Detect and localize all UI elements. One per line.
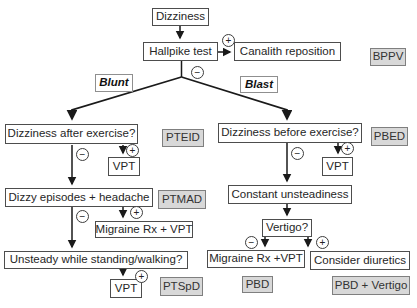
plus-icon: + xyxy=(222,34,235,47)
node-hallpike-test: Hallpike test xyxy=(143,42,218,61)
branch-label-blunt: Blunt xyxy=(95,74,133,92)
node-unsteady-standing-walking: Unsteady while standing/walking? xyxy=(4,251,188,269)
node-vertigo: Vertigo? xyxy=(262,219,312,237)
minus-icon: − xyxy=(191,66,204,79)
plus-icon: + xyxy=(316,236,329,249)
node-dizzy-episodes-headache: Dizzy episodes + headache xyxy=(5,188,153,207)
tag-bppv: BPPV xyxy=(370,48,406,66)
minus-icon: − xyxy=(76,148,89,161)
tag-pbd: PBD xyxy=(242,276,273,293)
plus-icon: + xyxy=(135,270,148,283)
plus-icon: + xyxy=(130,206,143,219)
node-consider-diuretics: Consider diuretics xyxy=(310,251,410,270)
tag-ptmad: PTMAD xyxy=(158,190,206,209)
tag-pbd-vertigo: PBD + Vertigo xyxy=(332,276,410,295)
branch-label-blast: Blast xyxy=(240,76,278,93)
tag-pteid: PTEID xyxy=(162,129,204,147)
node-dizziness: Dizziness xyxy=(152,8,209,26)
dizziness-flowchart: Dizziness Hallpike test Canalith reposit… xyxy=(0,0,417,308)
minus-icon: − xyxy=(245,236,258,249)
tag-pbed: PBED xyxy=(371,127,408,146)
node-vpt-right: VPT xyxy=(322,157,353,176)
tag-ptspd: PTSpD xyxy=(160,277,203,296)
plus-icon: + xyxy=(126,144,139,157)
node-dizziness-after-exercise: Dizziness after exercise? xyxy=(5,124,138,144)
node-constant-unsteadiness: Constant unsteadiness xyxy=(228,185,352,204)
node-vpt-left: VPT xyxy=(108,157,140,176)
minus-icon: − xyxy=(76,210,89,223)
node-canalith-reposition: Canalith reposition xyxy=(234,42,341,61)
node-migraine-rx-vpt-left: Migraine Rx + VPT xyxy=(95,221,193,238)
minus-icon: − xyxy=(291,147,304,160)
plus-icon: + xyxy=(341,142,354,155)
node-dizziness-before-exercise: Dizziness before exercise? xyxy=(218,123,362,143)
node-migraine-rx-vpt-right: Migraine Rx +VPT xyxy=(207,250,305,268)
